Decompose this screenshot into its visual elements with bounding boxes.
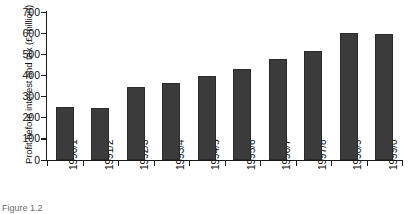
x-axis-tick	[260, 161, 261, 166]
bar	[269, 59, 287, 160]
bar	[91, 108, 109, 160]
y-axis-tick-label: 200	[0, 112, 40, 123]
y-axis-tick-label: 100	[0, 133, 40, 144]
x-axis-tick	[225, 161, 226, 166]
bar	[340, 33, 358, 160]
bar	[375, 34, 393, 160]
bar	[233, 69, 251, 160]
x-axis-tick	[402, 161, 403, 166]
x-axis-tick	[296, 161, 297, 166]
y-axis-tick-label: 300	[0, 91, 40, 102]
bar	[56, 107, 74, 160]
x-axis-tick	[331, 161, 332, 166]
bar	[127, 87, 145, 160]
y-axis-tick-label: 500	[0, 49, 40, 60]
x-axis-tick	[47, 161, 48, 166]
y-axis-tick-label: 400	[0, 70, 40, 81]
figure-caption: Figure 1.2	[2, 203, 43, 213]
x-axis-tick	[367, 161, 368, 166]
plot-area	[47, 12, 402, 160]
x-axis-tick	[154, 161, 155, 166]
bar	[304, 51, 322, 160]
y-axis-tick-label: 0	[0, 155, 40, 166]
bar	[162, 83, 180, 160]
x-axis-tick	[83, 161, 84, 166]
y-axis-tick-label: 700	[0, 7, 40, 18]
bar-chart-figure: Profit before interest and tax (£ millio…	[0, 0, 408, 214]
bar	[198, 76, 216, 160]
y-axis-tick-label: 600	[0, 28, 40, 39]
y-axis-title: Profit before interest and tax (£ millio…	[23, 0, 34, 170]
x-axis-tick	[118, 161, 119, 166]
x-axis-tick	[189, 161, 190, 166]
